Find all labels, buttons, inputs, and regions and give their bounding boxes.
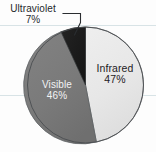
pie-label-infrared-value: 47% bbox=[90, 74, 140, 85]
pie-chart-figure: Ultraviolet 7% Infrared 47% Visible 46% bbox=[0, 0, 156, 152]
pie-label-infrared: Infrared 47% bbox=[90, 63, 140, 86]
pie-label-ultraviolet: Ultraviolet 7% bbox=[2, 4, 64, 26]
pie-label-visible: Visible 46% bbox=[32, 80, 82, 102]
pie-label-ultraviolet-value: 7% bbox=[2, 15, 64, 26]
pie-label-visible-value: 46% bbox=[32, 91, 82, 102]
